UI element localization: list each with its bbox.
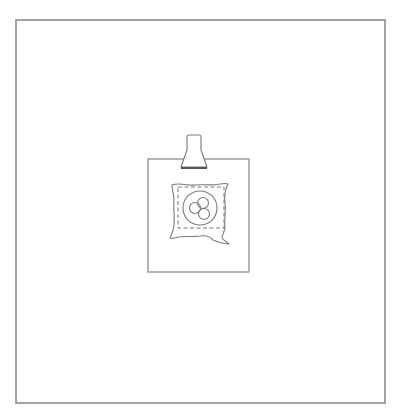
inner-circle-top <box>198 198 209 209</box>
inner-circle-bottom <box>199 209 210 220</box>
drawing-frame <box>16 20 385 403</box>
sachet-icon <box>170 183 229 244</box>
clip-neck <box>181 135 207 167</box>
patent-drawing <box>0 0 406 411</box>
sachet-outline <box>170 183 229 244</box>
clip-icon <box>181 135 207 168</box>
